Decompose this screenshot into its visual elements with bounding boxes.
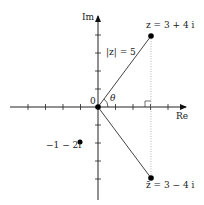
real-axis-label: Re (176, 111, 188, 121)
imaginary-axis-label: Im (82, 12, 94, 22)
point-minus1-minus2i-label: −1 − 2i (46, 140, 81, 150)
angle-label: θ (110, 93, 115, 103)
origin-label: 0 (90, 96, 96, 106)
origin-point (95, 104, 101, 110)
angle-arc (104, 99, 108, 107)
vector-z-conjugate (98, 107, 151, 178)
complex-plane-figure (0, 0, 204, 205)
point-z-label: z = 3 + 4 i (146, 20, 194, 30)
point-z (148, 33, 154, 39)
point-z-conjugate-label: z̄ = 3 − 4 i (146, 180, 194, 190)
modulus-label: |z| = 5 (106, 47, 136, 57)
